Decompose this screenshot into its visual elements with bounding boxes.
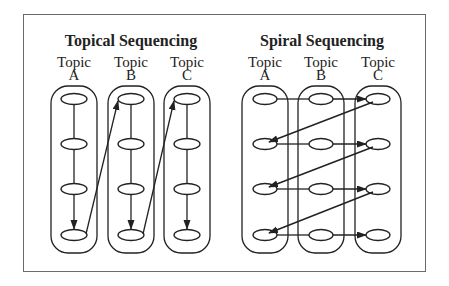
topical-panel xyxy=(51,86,210,253)
topical-jump-arrows xyxy=(86,101,174,234)
sequencing-diagram xyxy=(0,0,449,286)
spiral-topic-b-column xyxy=(298,86,344,253)
topical-vertical-arrows xyxy=(74,105,187,230)
spiral-return-arrows xyxy=(269,102,373,233)
spiral-panel xyxy=(242,86,401,253)
spiral-topic-c-column xyxy=(355,86,401,253)
